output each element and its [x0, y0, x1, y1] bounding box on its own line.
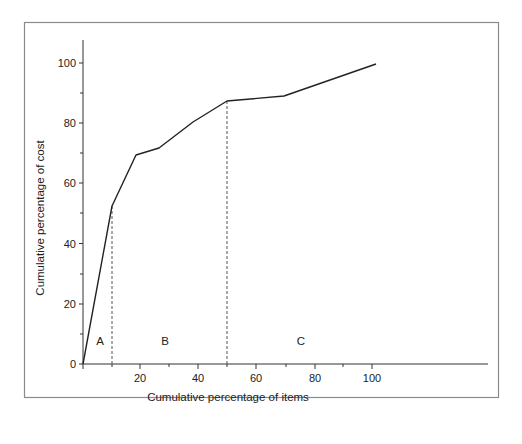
y-axis-title: Cumulative percentage of cost [34, 140, 46, 296]
x-ticks [83, 364, 372, 369]
chart-frame [25, 23, 239, 198]
figure-outline [25, 23, 238, 197]
chart-border [25, 23, 239, 197]
x-tick-label-80: 80 [309, 372, 321, 384]
region-label-a: A [96, 335, 104, 347]
y-tick-label-100: 100 [58, 57, 76, 69]
figure [25, 23, 239, 197]
abc-analysis-chart: 0 20 40 60 80 100 20 40 60 80 100 Cumula… [0, 0, 522, 444]
border-box [25, 23, 239, 197]
x-axis-title: Cumulative percentage of items [147, 391, 309, 403]
figure-frame [24, 23, 238, 197]
y-ticks [79, 63, 83, 364]
x-tick-label-100: 100 [363, 372, 381, 384]
region-label-c: C [297, 335, 305, 347]
plot-frame [25, 23, 239, 197]
frame [25, 23, 238, 197]
box [25, 23, 239, 197]
figure-border-rect [25, 23, 238, 197]
x-tick-label-20: 20 [134, 372, 146, 384]
y-tick-label-80: 80 [64, 117, 76, 129]
y-tick-label-60: 60 [64, 177, 76, 189]
y-tick-label-0: 0 [70, 358, 76, 370]
x-tick-label-60: 60 [250, 372, 262, 384]
border [25, 23, 239, 197]
figure-box [25, 23, 238, 197]
panel-border [25, 23, 238, 197]
abc-curve [83, 64, 376, 364]
y-tick-label-20: 20 [64, 298, 76, 310]
x-tick-label-40: 40 [192, 372, 204, 384]
y-tick-label-40: 40 [64, 238, 76, 250]
figure-panel [25, 23, 239, 197]
region-label-b: B [161, 335, 169, 347]
main-frame [25, 23, 239, 197]
